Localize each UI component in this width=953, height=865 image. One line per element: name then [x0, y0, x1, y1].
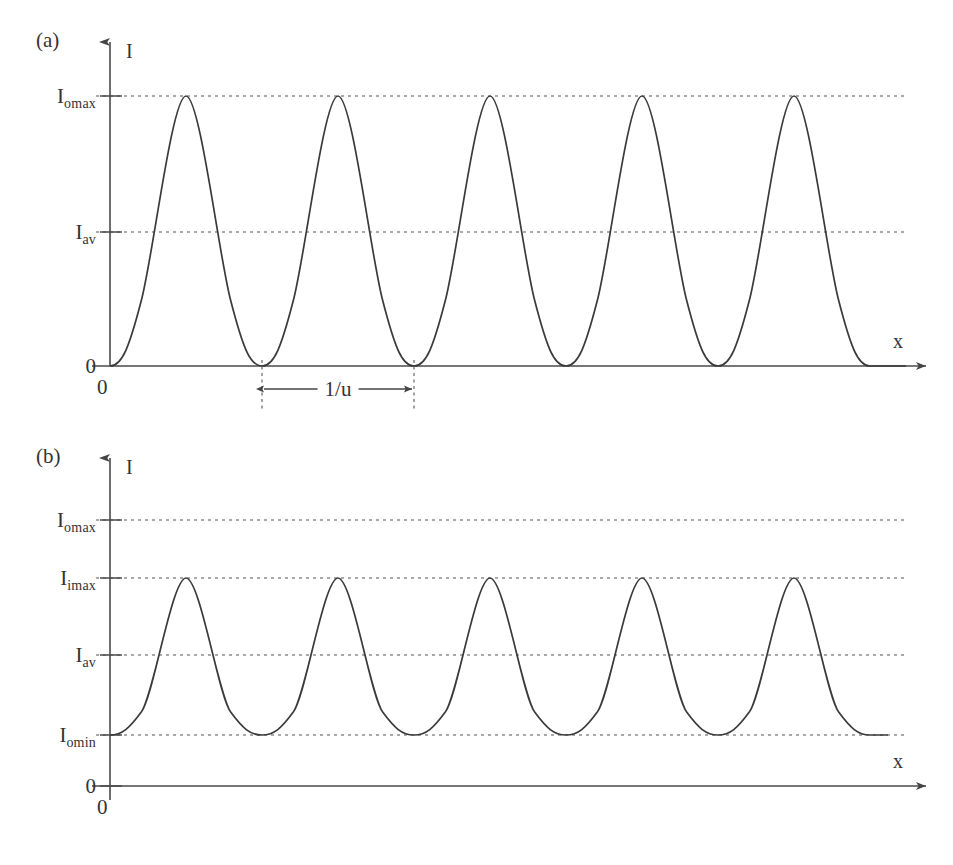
y-tick-symbol: 0	[86, 354, 97, 378]
y-tick-label-iomax-a: Iomax	[0, 84, 96, 109]
figure-container: (a) I x Iomax Iav 0 0 1/u (b) I x Iomax …	[0, 0, 953, 865]
y-tick-label-iimax-b: Iimax	[0, 566, 96, 591]
panel-b-plot	[92, 458, 926, 800]
origin-label-a: 0	[97, 375, 108, 400]
period-annotation-a: 1/u	[318, 377, 359, 402]
y-tick-label-iav-b: Iav	[0, 643, 96, 668]
y-tick-subscript: omax	[64, 520, 96, 535]
x-axis-label-a: x	[893, 330, 903, 353]
y-tick-subscript: omin	[66, 735, 96, 750]
y-tick-subscript: av	[82, 655, 96, 670]
intensity-curve-a	[110, 96, 906, 366]
figure-canvas	[0, 0, 953, 865]
y-axis-label-b: I	[126, 456, 133, 479]
y-tick-label-iomin-b: Iomin	[0, 723, 96, 748]
y-tick-label-zero-b: 0	[0, 774, 96, 799]
y-axis-label-a: I	[126, 40, 133, 63]
y-tick-label-iomax-b: Iomax	[0, 508, 96, 533]
panel-label-a: (a)	[36, 28, 59, 53]
y-tick-subscript: imax	[67, 578, 96, 593]
y-tick-subscript: av	[82, 232, 96, 247]
x-axis-label-b: x	[893, 750, 903, 773]
y-tick-symbol: 0	[86, 774, 97, 798]
y-tick-subscript: omax	[64, 96, 96, 111]
panel-a-plot	[92, 42, 926, 412]
y-tick-label-zero-a: 0	[0, 354, 96, 379]
origin-label-b: 0	[97, 795, 108, 820]
y-tick-label-iav-a: Iav	[0, 220, 96, 245]
intensity-curve-b	[110, 578, 888, 735]
panel-label-b: (b)	[36, 444, 61, 469]
